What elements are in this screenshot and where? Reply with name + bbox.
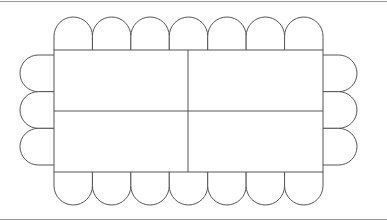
chair-bottom-6 <box>246 172 284 205</box>
chair-bottom-4 <box>169 172 207 205</box>
chair-top-7 <box>285 17 323 50</box>
chair-bottom-3 <box>131 172 169 205</box>
chair-top-1 <box>54 17 92 50</box>
chair-bottom-2 <box>92 172 130 205</box>
chair-top-3 <box>131 17 169 50</box>
chair-left-1 <box>20 55 54 92</box>
chair-right-3 <box>323 128 357 165</box>
chair-right-1 <box>323 55 357 92</box>
chair-top-4 <box>169 17 207 50</box>
seating-layout-diagram <box>0 0 387 221</box>
chair-top-5 <box>208 17 246 50</box>
chair-left-2 <box>20 92 54 129</box>
chair-bottom-7 <box>285 172 323 205</box>
chair-right-2 <box>323 92 357 129</box>
chair-top-2 <box>92 17 130 50</box>
chair-left-3 <box>20 128 54 165</box>
chair-top-6 <box>246 17 284 50</box>
table-group <box>54 50 323 172</box>
chair-bottom-1 <box>54 172 92 205</box>
chair-bottom-5 <box>208 172 246 205</box>
